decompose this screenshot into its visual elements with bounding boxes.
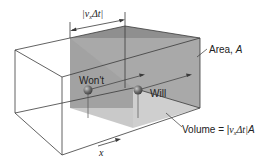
area-label: Area, A (209, 44, 243, 55)
volume-label: Volume = |vxΔt|A (182, 124, 255, 136)
particle-wont (84, 86, 93, 95)
width-label: |vxΔt| (82, 8, 103, 20)
wont-label: Won't (79, 75, 104, 86)
x-axis-label: x (98, 147, 104, 158)
gas-volume-diagram: |vxΔt| Area, A Won't Will Volume = |vxΔt… (0, 0, 271, 164)
will-label: Will (150, 88, 166, 99)
particle-will (134, 86, 143, 95)
